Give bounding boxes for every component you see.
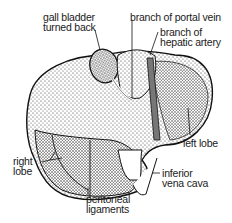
label-inferior-vena-cava-2: vena cava bbox=[162, 178, 208, 189]
label-portal-vein: branch of portal vein bbox=[130, 12, 221, 23]
label-gall-bladder-2: turned back bbox=[43, 22, 96, 33]
label-left-lobe: left lobe bbox=[183, 138, 218, 149]
label-hepatic-artery-2: hepatic artery bbox=[160, 37, 221, 48]
label-right-lobe-2: lobe bbox=[13, 166, 32, 177]
label-peritoneal-ligaments-2: ligaments bbox=[86, 204, 129, 215]
